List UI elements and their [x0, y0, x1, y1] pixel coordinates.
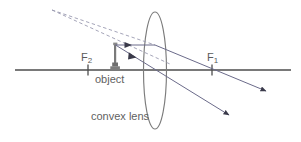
- focal-point-label-f2-text: F: [81, 51, 88, 63]
- parallel-ray-arrowhead: [125, 42, 133, 48]
- focal-point-label-f1-subscript: 1: [214, 56, 218, 65]
- focal-point-label-f1-text: F: [207, 51, 214, 63]
- ray-diagram-canvas: [0, 0, 301, 142]
- convex-lens-ray-diagram: F2 F1 object convex lens: [0, 0, 301, 142]
- convex-lens-label: convex lens: [91, 111, 149, 122]
- virtual-ray-upper: [52, 10, 155, 45]
- virtual-ray-lower: [52, 10, 171, 65]
- focal-point-label-f1: F1: [207, 52, 218, 65]
- focal-point-label-f2: F2: [81, 52, 92, 65]
- object-label: object: [95, 74, 124, 85]
- center-ray-arrowhead: [128, 52, 137, 59]
- focal-point-label-f2-subscript: 2: [88, 56, 92, 65]
